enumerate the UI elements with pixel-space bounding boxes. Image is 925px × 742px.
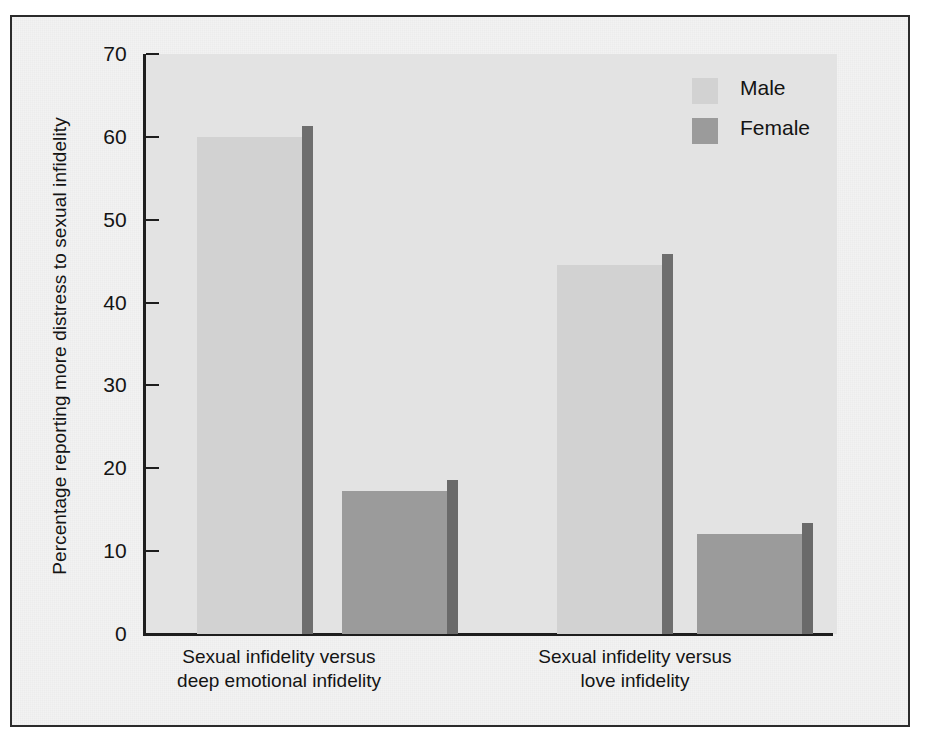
bar-side-shadow bbox=[802, 523, 813, 634]
bar-side-shadow bbox=[447, 480, 458, 634]
bar-female-group-1 bbox=[342, 491, 447, 634]
bar-face bbox=[697, 534, 802, 634]
y-axis-tick-label: 50 bbox=[67, 209, 127, 230]
bar-face bbox=[557, 265, 662, 634]
x-axis-label-group-2-line-2: love infidelity bbox=[470, 669, 800, 693]
bar-chart: 706050403020100 Percentage reporting mor… bbox=[12, 17, 910, 727]
y-axis-line bbox=[143, 54, 146, 636]
y-axis-tick-label: 20 bbox=[67, 457, 127, 478]
legend-label-female: Female bbox=[740, 116, 810, 140]
bar-female-group-2 bbox=[697, 534, 802, 634]
y-axis-tick-label: 60 bbox=[67, 126, 127, 147]
y-axis-tick-label: 40 bbox=[67, 292, 127, 313]
y-axis-tick-mark bbox=[146, 467, 159, 469]
y-axis-tick-mark bbox=[146, 550, 159, 552]
legend-label-male: Male bbox=[740, 76, 786, 100]
y-axis-title: Percentage reporting more distress to se… bbox=[49, 66, 71, 626]
y-axis-tick-mark bbox=[146, 633, 159, 635]
y-axis-tick-mark bbox=[146, 384, 159, 386]
x-axis-label-group-1: Sexual infidelity versus deep emotional … bbox=[114, 645, 444, 694]
bar-face bbox=[342, 491, 447, 634]
y-axis-tick-label: 0 bbox=[67, 623, 127, 644]
x-axis-label-group-1-line-2: deep emotional infidelity bbox=[114, 669, 444, 693]
y-axis-tick-mark bbox=[146, 302, 159, 304]
bar-side-shadow bbox=[302, 126, 313, 634]
y-axis-tick-label: 10 bbox=[67, 540, 127, 561]
legend-swatch-female-icon bbox=[692, 118, 718, 144]
x-axis-label-group-1-line-1: Sexual infidelity versus bbox=[114, 645, 444, 669]
bar-male-group-1 bbox=[197, 137, 302, 634]
legend-swatch-male-icon bbox=[692, 78, 718, 104]
x-axis-label-group-2-line-1: Sexual infidelity versus bbox=[470, 645, 800, 669]
x-axis-label-group-2: Sexual infidelity versus love infidelity bbox=[470, 645, 800, 694]
bar-side-shadow bbox=[662, 254, 673, 634]
figure-frame: 706050403020100 Percentage reporting mor… bbox=[10, 15, 910, 727]
y-axis-tick-label: 70 bbox=[67, 43, 127, 64]
bar-face bbox=[197, 137, 302, 634]
y-axis-tick-mark bbox=[146, 219, 159, 221]
y-axis-tick-mark bbox=[146, 136, 159, 138]
y-axis-tick-label: 30 bbox=[67, 374, 127, 395]
y-axis-tick-mark bbox=[146, 53, 159, 55]
bar-male-group-2 bbox=[557, 265, 662, 634]
